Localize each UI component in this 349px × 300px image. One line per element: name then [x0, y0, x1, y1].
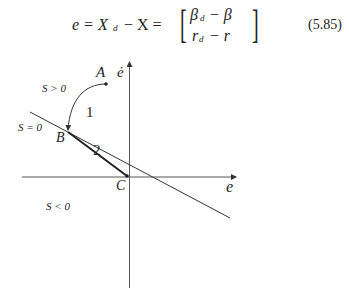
- region-negative-label: S < 0: [46, 200, 70, 212]
- segment-2-label: 2: [93, 142, 101, 159]
- segment-1-label: 1: [86, 104, 94, 121]
- point-a-label: A: [96, 64, 105, 81]
- point-c-label: C: [116, 178, 125, 194]
- sliding-mode-phase-diagram: [0, 0, 349, 300]
- point-a-dot: [104, 82, 108, 86]
- region-zero-label: S = 0: [18, 121, 42, 133]
- point-b-label: B: [56, 130, 65, 146]
- region-positive-label: S > 0: [42, 82, 66, 94]
- x-axis-label: e: [226, 178, 233, 196]
- y-axis-label: ė: [117, 64, 124, 81]
- point-c-dot: [125, 174, 129, 178]
